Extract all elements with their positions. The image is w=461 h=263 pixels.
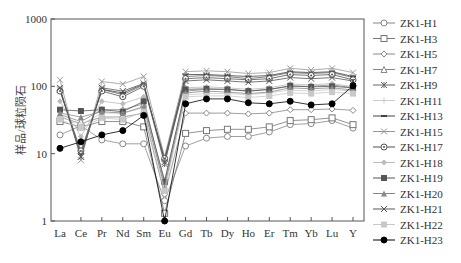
- marker-icon: [57, 77, 63, 83]
- legend-label: ZK1-H17: [400, 141, 443, 153]
- marker-icon: [204, 96, 210, 102]
- marker-icon: [141, 98, 147, 104]
- marker-icon: [226, 78, 228, 80]
- marker-icon: [245, 133, 251, 139]
- marker-icon: [329, 89, 335, 95]
- marker-icon: [224, 110, 230, 116]
- legend-label: ZK1-H21: [400, 203, 443, 215]
- x-tick-label: Sm: [136, 227, 151, 239]
- legend-item: ZK1-H17: [373, 141, 443, 153]
- series-lines: [57, 65, 356, 224]
- legend-item: ZK1-H18: [373, 157, 443, 169]
- legend-item: ZK1-H22: [373, 219, 443, 231]
- legend-label: ZK1-H3: [400, 33, 438, 45]
- marker-icon: [247, 79, 249, 81]
- legend-item: ZK1-H9: [373, 79, 438, 91]
- marker-icon: [245, 126, 251, 132]
- marker-icon: [57, 145, 63, 151]
- marker-icon: [287, 90, 293, 96]
- marker-icon: [381, 175, 387, 181]
- legend-label: ZK1-H23: [400, 234, 443, 246]
- marker-icon: [141, 112, 147, 118]
- y-tick-label: 100: [31, 80, 48, 92]
- marker-icon: [57, 98, 63, 104]
- legend-label: ZK1-H19: [400, 172, 443, 184]
- marker-icon: [185, 78, 187, 80]
- marker-icon: [308, 102, 314, 108]
- legend-item: ZK1-H23: [373, 234, 443, 246]
- marker-icon: [289, 73, 291, 75]
- marker-icon: [183, 130, 189, 136]
- legend-label: ZK1-H1: [400, 17, 437, 29]
- x-tick-label: Ce: [75, 227, 87, 239]
- marker-icon: [57, 132, 63, 138]
- legend-item: ZK1-H15: [373, 126, 443, 138]
- marker-icon: [350, 122, 356, 128]
- legend: ZK1-H1ZK1-H3ZK1-H5ZK1-H7ZK1-H9ZK1-H11ZK1…: [373, 17, 443, 246]
- marker-icon: [99, 98, 105, 104]
- x-tick-label: Eu: [159, 227, 172, 239]
- marker-icon: [162, 218, 168, 224]
- marker-icon: [268, 78, 270, 80]
- marker-icon: [266, 93, 272, 99]
- legend-item: ZK1-H7: [373, 64, 438, 76]
- marker-icon: [204, 135, 210, 141]
- marker-icon: [122, 96, 124, 98]
- x-tick-label: Nd: [116, 227, 130, 239]
- legend-label: ZK1-H13: [400, 110, 443, 122]
- marker-icon: [381, 98, 387, 104]
- y-tick-label: 10: [36, 148, 48, 160]
- legend-item: ZK1-H19: [373, 172, 443, 184]
- marker-icon: [80, 150, 82, 152]
- legend-label: ZK1-H9: [400, 79, 438, 91]
- legend-item: ZK1-H21: [373, 203, 443, 215]
- x-tick-label: Tb: [200, 227, 213, 239]
- marker-icon: [183, 143, 189, 149]
- y-tick-label: 1: [42, 215, 48, 227]
- x-tick-label: Pr: [97, 227, 107, 239]
- legend-label: ZK1-H7: [400, 64, 438, 76]
- legend-item: ZK1-H3: [373, 33, 438, 45]
- y-tick-label: 1000: [25, 13, 48, 25]
- marker-icon: [224, 96, 230, 102]
- marker-icon: [287, 98, 293, 104]
- marker-icon: [141, 73, 147, 79]
- marker-icon: [331, 73, 333, 75]
- marker-icon: [381, 160, 387, 166]
- marker-icon: [381, 222, 387, 228]
- marker-icon: [99, 115, 105, 121]
- marker-icon: [120, 101, 126, 107]
- marker-icon: [162, 198, 168, 204]
- marker-icon: [120, 141, 126, 147]
- marker-icon: [287, 118, 293, 124]
- marker-icon: [287, 107, 293, 113]
- y-axis-label: 样品/球粒陨石: [14, 85, 27, 154]
- marker-icon: [78, 125, 84, 131]
- marker-icon: [381, 51, 387, 57]
- marker-icon: [204, 110, 210, 116]
- marker-icon: [183, 94, 189, 100]
- marker-icon: [308, 91, 314, 97]
- x-tick-label: Dy: [221, 227, 235, 239]
- x-tick-label: Lu: [326, 227, 339, 239]
- x-tick-label: Er: [264, 227, 275, 239]
- legend-item: ZK1-H1: [373, 17, 437, 29]
- x-tick-label: Gd: [179, 227, 193, 239]
- legend-label: ZK1-H5: [400, 48, 438, 60]
- x-tick-label: Tm: [283, 227, 299, 239]
- legend-label: ZK1-H20: [400, 188, 443, 200]
- marker-icon: [99, 132, 105, 138]
- ree-distribution-chart: 1101001000LaCePrNdSmEuGdTbDyHoErTmYbLuY样…: [0, 0, 461, 263]
- marker-icon: [329, 115, 335, 121]
- marker-icon: [183, 101, 189, 107]
- chart-canvas: 1101001000LaCePrNdSmEuGdTbDyHoErTmYbLuY样…: [0, 0, 461, 263]
- marker-icon: [120, 128, 126, 134]
- marker-icon: [308, 117, 314, 123]
- marker-icon: [78, 108, 84, 114]
- marker-icon: [329, 101, 335, 107]
- marker-icon: [78, 139, 84, 145]
- series-zk1-h3: [57, 115, 356, 216]
- legend-item: ZK1-H20: [373, 188, 443, 200]
- x-tick-label: Y: [349, 227, 357, 239]
- legend-label: ZK1-H15: [400, 126, 443, 138]
